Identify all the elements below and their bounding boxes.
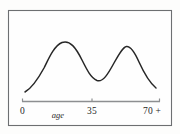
x-axis-label-0: 0 bbox=[20, 106, 25, 116]
x-axis-label-70-plus: 70 + bbox=[143, 106, 161, 116]
x-axis-label-35: 35 bbox=[87, 106, 97, 116]
x-axis-title: age bbox=[52, 110, 65, 120]
age-distribution-figure: 0 35 70 + age bbox=[0, 0, 180, 134]
chart-canvas: 0 35 70 + age bbox=[0, 0, 180, 134]
